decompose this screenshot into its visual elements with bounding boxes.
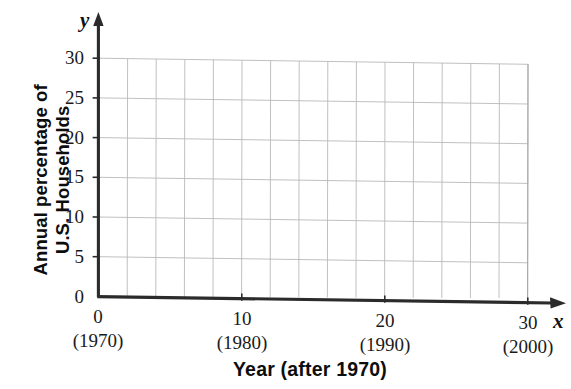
- x-axis-arrowhead: [550, 297, 566, 308]
- y-axis-title-line-2: U.S. Households: [52, 50, 74, 310]
- x-tick-label-30: 30: [498, 313, 558, 332]
- y-axis-title-line-1: Annual percentage of: [30, 50, 52, 310]
- grid-horizontal-lines: [99, 58, 528, 263]
- x-tick-label-20: 20: [355, 311, 415, 330]
- x-tick-sublabel-1970: (1970): [58, 331, 138, 350]
- x-axis-line: [97, 297, 551, 303]
- x-tick-label-10: 10: [212, 309, 272, 328]
- x-tick-sublabel-1980: (1980): [202, 333, 282, 352]
- x-tick-sublabel-1990: (1990): [345, 335, 425, 354]
- y-axis-title: Annual percentage of U.S. Households: [30, 50, 74, 310]
- y-axis-arrowhead: [93, 12, 103, 26]
- x-tick-sublabel-2000: (2000): [488, 337, 568, 356]
- chart-figure: y x 30 25 20 15 10 5 0 0 10 20 30 (1970)…: [0, 0, 571, 389]
- y-axis-variable-label: y: [80, 10, 89, 31]
- x-tick-label-0: 0: [68, 307, 128, 326]
- x-axis-title: Year (after 1970): [150, 360, 470, 380]
